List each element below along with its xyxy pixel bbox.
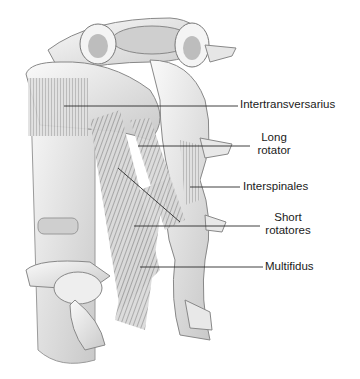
label-text: Multifidus	[265, 260, 314, 273]
intertransversarius-muscle	[28, 78, 88, 136]
label-text: Long	[252, 131, 296, 144]
label-text: rotatores	[260, 224, 316, 237]
label-text: Short	[260, 211, 316, 224]
label-text: Intertransversarius	[240, 98, 335, 111]
label-intertransversarius: Intertransversarius	[240, 98, 335, 111]
label-short-rotatores: Short rotatores	[260, 211, 316, 237]
label-text: Interspinales	[243, 180, 308, 193]
label-multifidus: Multifidus	[265, 260, 314, 273]
label-text: rotator	[252, 144, 296, 157]
label-interspinales: Interspinales	[243, 180, 308, 193]
label-long-rotator: Long rotator	[252, 131, 296, 157]
